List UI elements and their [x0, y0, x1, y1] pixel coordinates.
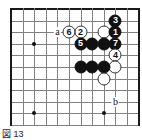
board-gridline-vertical [46, 8, 47, 126]
board-gridline-horizontal [10, 125, 140, 126]
stone-move-number: 7 [113, 39, 118, 48]
board-gridline-horizontal [10, 102, 140, 103]
go-diagram-figure: 3162574ab 図 13 [0, 0, 142, 140]
stone-move-number: 6 [66, 27, 71, 36]
board-gridline-vertical [127, 8, 128, 126]
board-letter-marker-a[interactable]: a [54, 27, 60, 37]
board-letter-marker-b[interactable]: b [112, 97, 119, 107]
board-gridline-horizontal [10, 113, 140, 114]
star-point [32, 111, 36, 115]
stone-move-number: 2 [78, 27, 83, 36]
board-gridline-horizontal [10, 90, 140, 91]
stone-move-number: 4 [113, 50, 118, 59]
board-gridline-horizontal [10, 8, 140, 10]
board-gridline-vertical [23, 8, 24, 126]
go-stone-white[interactable] [97, 72, 110, 85]
go-board[interactable]: 3162574ab [0, 0, 142, 126]
board-gridline-vertical [138, 8, 140, 126]
board-gridline-horizontal [10, 79, 140, 80]
stone-move-number: 3 [113, 16, 118, 25]
star-point [102, 111, 106, 115]
board-gridline-vertical [34, 8, 35, 126]
figure-caption: 図 13 [2, 128, 140, 140]
stone-move-number: 5 [78, 39, 83, 48]
star-point [32, 42, 36, 46]
board-gridline-vertical [10, 8, 12, 126]
stone-move-number: 1 [113, 27, 118, 36]
go-stone-white[interactable] [109, 61, 122, 74]
